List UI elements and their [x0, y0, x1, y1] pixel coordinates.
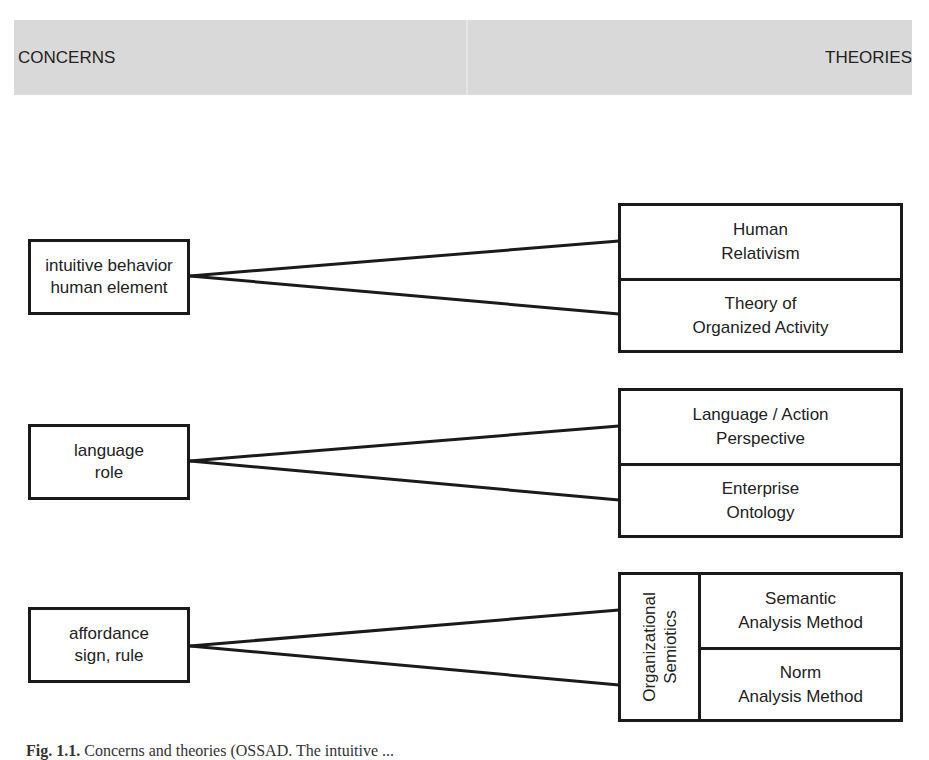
concern-box-language: language role	[28, 424, 190, 500]
theory-line: Analysis Method	[738, 611, 863, 635]
theory-line: Organized Activity	[692, 316, 828, 340]
theory-line: Relativism	[721, 242, 799, 266]
concern-line: sign, rule	[69, 645, 149, 667]
theory-line: Norm	[738, 661, 863, 685]
connector-line	[190, 646, 619, 685]
caption-text: Concerns and theories (OSSAD. The intuit…	[84, 742, 394, 759]
figure-caption: Fig. 1.1. Concerns and theories (OSSAD. …	[26, 742, 394, 760]
theory-group-language: Language / Action Perspective Enterprise…	[618, 388, 903, 538]
group-label-line: Organizational	[639, 592, 660, 702]
concern-line: human element	[45, 277, 173, 299]
organizational-semiotics-label: Organizational Semiotics	[621, 575, 698, 719]
connector-line	[190, 461, 619, 500]
concern-line: intuitive behavior	[45, 255, 173, 277]
connector-line	[190, 241, 619, 276]
theory-human-relativism: Human Relativism	[621, 206, 900, 281]
concern-line: language	[74, 440, 144, 462]
group-label-line: Semiotics	[660, 592, 681, 702]
concern-line: affordance	[69, 623, 149, 645]
caption-label: Fig. 1.1.	[26, 742, 80, 759]
theory-enterprise-ontology: Enterprise Ontology	[621, 466, 900, 535]
theory-group-semiotics: Organizational Semiotics Semantic Analys…	[618, 572, 903, 722]
semiotics-methods: Semantic Analysis Method Norm Analysis M…	[698, 575, 900, 719]
theory-line: Theory of	[692, 292, 828, 316]
theory-language-action: Language / Action Perspective	[621, 391, 900, 466]
connector-line	[190, 426, 619, 461]
theory-line: Analysis Method	[738, 685, 863, 709]
theory-semantic-analysis: Semantic Analysis Method	[701, 575, 900, 650]
concern-line: role	[74, 462, 144, 484]
theory-norm-analysis: Norm Analysis Method	[701, 650, 900, 719]
concern-box-affordance: affordance sign, rule	[28, 607, 190, 683]
theory-line: Enterprise	[722, 477, 799, 501]
connector-line	[190, 276, 619, 314]
theory-group-human: Human Relativism Theory of Organized Act…	[618, 203, 903, 353]
theory-line: Perspective	[692, 427, 828, 451]
theory-line: Human	[721, 218, 799, 242]
theory-organized-activity: Theory of Organized Activity	[621, 281, 900, 350]
theory-line: Semantic	[738, 587, 863, 611]
theory-line: Language / Action	[692, 403, 828, 427]
concern-box-intuitive-behavior: intuitive behavior human element	[28, 239, 190, 315]
theory-line: Ontology	[722, 501, 799, 525]
connector-line	[190, 610, 619, 646]
